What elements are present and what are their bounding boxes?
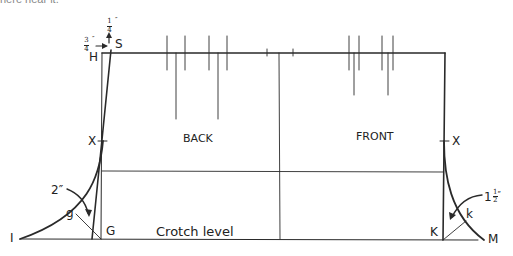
label-back: BACK: [183, 133, 213, 144]
crotch-level-line: [20, 239, 478, 240]
label-G: G: [106, 225, 115, 237]
measure-front-crotch: 1 1 2 ″: [484, 189, 500, 204]
label-M: M: [488, 233, 498, 245]
g-diagonal: [76, 214, 101, 239]
front-crotch-curve: [444, 141, 484, 240]
label-H: H: [89, 51, 98, 63]
label-k: k: [466, 208, 473, 220]
hip-line: [102, 171, 443, 172]
label-crotch-level: Crotch level: [156, 225, 234, 238]
label-g: g: [66, 207, 74, 219]
label-X-right: X: [452, 135, 460, 147]
label-K: K: [430, 226, 438, 238]
measure-back-crotch: 2″: [51, 184, 63, 196]
measure-quarter-inch: 1 4 ″: [107, 18, 112, 34]
center-line: [279, 53, 280, 239]
label-S: S: [115, 38, 123, 50]
label-front: FRONT: [356, 131, 394, 142]
label-X-left: X: [88, 135, 96, 147]
trouser-pattern-diagram: [0, 0, 513, 256]
k-diagonal: [443, 221, 466, 240]
measure-three-quarter-inch: 3 4 ″: [84, 37, 89, 53]
label-I: I: [10, 232, 14, 244]
